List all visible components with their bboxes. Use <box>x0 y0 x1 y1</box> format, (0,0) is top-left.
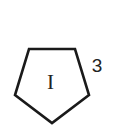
pentagon-label: I <box>47 70 54 94</box>
annotation-number: 3 <box>92 55 103 76</box>
pentagon-diagram: I 3 <box>0 0 133 135</box>
diagram-canvas: I 3 <box>0 0 133 135</box>
